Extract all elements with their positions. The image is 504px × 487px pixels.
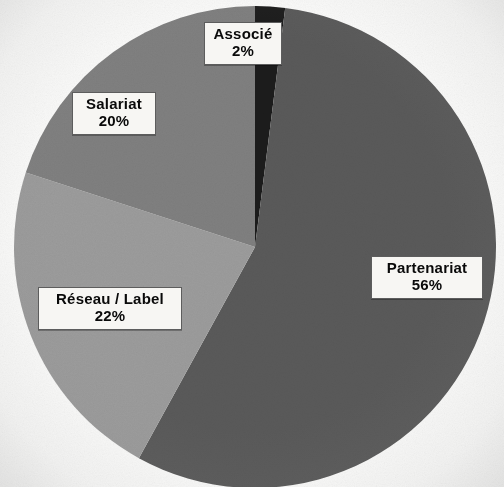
slice-label-salariat-value: 20% — [80, 113, 148, 130]
slice-label-associe: Associé 2% — [204, 22, 282, 65]
slice-label-partenariat-name: Partenariat — [379, 260, 475, 277]
pie-chart-canvas — [0, 0, 504, 487]
slice-label-reseau-label-name: Réseau / Label — [46, 291, 174, 308]
slice-label-associe-name: Associé — [212, 26, 274, 43]
slice-label-salariat-name: Salariat — [80, 96, 148, 113]
pie-chart-figure: Associé 2% Salariat 20% Réseau / Label 2… — [0, 0, 504, 487]
slice-label-partenariat-value: 56% — [379, 277, 475, 294]
slice-label-partenariat: Partenariat 56% — [371, 256, 483, 299]
pie-chart-svg — [0, 0, 504, 487]
slice-label-reseau-label: Réseau / Label 22% — [38, 287, 182, 330]
slice-label-salariat: Salariat 20% — [72, 92, 156, 135]
slice-label-reseau-label-value: 22% — [46, 308, 174, 325]
slice-label-associe-value: 2% — [212, 43, 274, 60]
